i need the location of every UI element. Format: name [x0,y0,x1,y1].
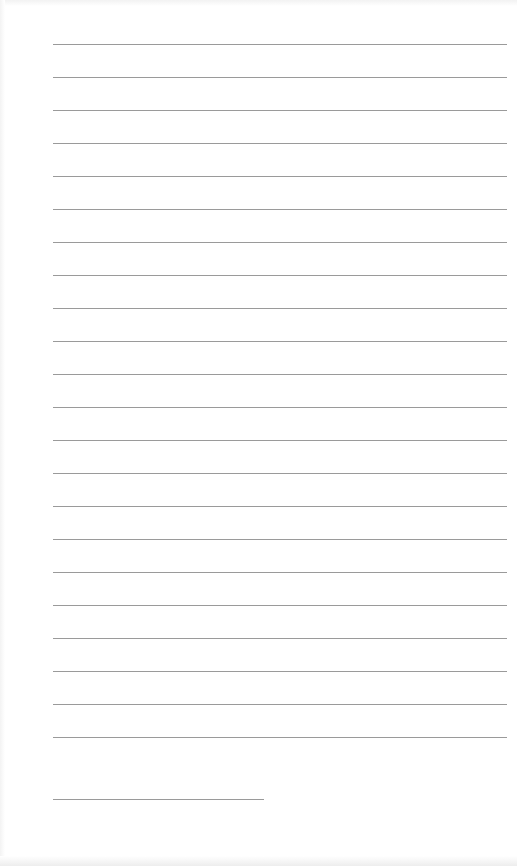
ruled-line [53,143,507,144]
ruled-line [53,209,507,210]
ruled-line [53,704,507,705]
page-bottom-edge [0,856,517,866]
ruled-line [53,671,507,672]
ruled-line [53,44,507,45]
ruled-line [53,341,507,342]
ruled-line [53,407,507,408]
ruled-line [53,440,507,441]
ruled-line [53,77,507,78]
ruled-line [53,308,507,309]
page-top-edge [0,0,517,6]
ruled-line [53,473,507,474]
ruled-line [53,506,507,507]
ruled-line [53,176,507,177]
page-left-edge [0,0,5,866]
lined-page [0,0,517,866]
ruled-line [53,242,507,243]
ruled-line [53,605,507,606]
signature-line [53,799,264,800]
ruled-line [53,110,507,111]
ruled-line [53,275,507,276]
ruled-line [53,374,507,375]
ruled-line [53,539,507,540]
ruled-line [53,737,507,738]
ruled-line [53,572,507,573]
ruled-line [53,638,507,639]
